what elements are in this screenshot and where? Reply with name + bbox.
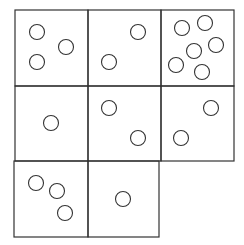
circle-dot bbox=[198, 16, 213, 31]
circle-dot bbox=[58, 206, 73, 221]
circle-dot bbox=[187, 44, 202, 59]
cell-border bbox=[14, 161, 88, 237]
grid-cell bbox=[14, 161, 88, 237]
cell-border bbox=[15, 86, 88, 161]
cell-border bbox=[88, 86, 161, 161]
circle-dot bbox=[175, 21, 190, 36]
grid-cell bbox=[88, 10, 161, 86]
circle-dot bbox=[116, 192, 131, 207]
circle-dot bbox=[209, 38, 224, 53]
circle-dot bbox=[30, 55, 45, 70]
grid-cell bbox=[161, 86, 234, 161]
circle-dot bbox=[131, 25, 146, 40]
circle-dot bbox=[174, 131, 189, 146]
circle-dot bbox=[195, 65, 210, 80]
circle-dot bbox=[102, 101, 117, 116]
cell-border bbox=[15, 10, 88, 86]
circle-grid-diagram bbox=[0, 0, 244, 245]
cell-border bbox=[88, 161, 159, 237]
grid-cell bbox=[88, 86, 161, 161]
grid-cell bbox=[15, 10, 88, 86]
circle-dot bbox=[59, 40, 74, 55]
circle-dot bbox=[50, 184, 65, 199]
cell-border bbox=[88, 10, 161, 86]
circle-dot bbox=[204, 101, 219, 116]
cell-border bbox=[161, 86, 234, 161]
circle-dot bbox=[44, 116, 59, 131]
circle-dot bbox=[169, 58, 184, 73]
circle-dot bbox=[29, 176, 44, 191]
circle-dot bbox=[102, 55, 117, 70]
grid-cell bbox=[88, 161, 159, 237]
grid-cell bbox=[161, 10, 234, 86]
circle-dot bbox=[30, 25, 45, 40]
grid-cell bbox=[15, 86, 88, 161]
circle-dot bbox=[131, 131, 146, 146]
